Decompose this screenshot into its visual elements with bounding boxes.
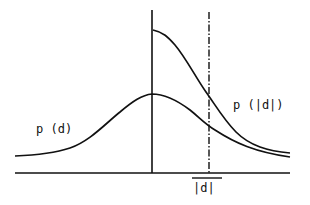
diagram-canvas: p (d) p (|d|) |d| [0,0,310,205]
label-abs-d: |d| [193,182,215,194]
label-p-d: p (d) [36,123,72,135]
label-p-abs-d: p (|d|) [233,99,284,111]
